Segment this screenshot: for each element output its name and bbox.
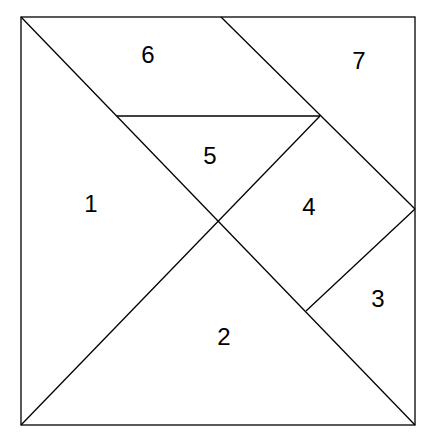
piece-label-1: 1: [84, 190, 97, 217]
divider-3-4: [306, 209, 415, 311]
tangram-diagram: 1 2 3 4 5 6 7: [0, 0, 432, 441]
piece-label-7: 7: [352, 47, 365, 74]
piece-label-2: 2: [217, 323, 230, 350]
divider-6-7: [221, 17, 415, 209]
piece-label-6: 6: [141, 41, 154, 68]
piece-label-3: 3: [371, 285, 384, 312]
piece-label-5: 5: [203, 142, 216, 169]
piece-label-4: 4: [302, 193, 315, 220]
anti-diagonal-segment: [21, 116, 320, 425]
